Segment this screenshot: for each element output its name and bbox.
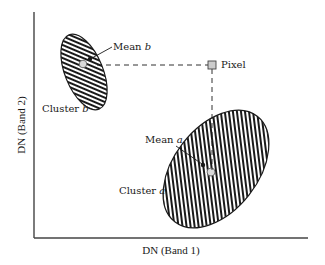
cluster-b-mean-dot	[88, 57, 92, 61]
cluster-a-label: Cluster a	[119, 185, 165, 196]
pixel-square-icon	[208, 61, 216, 69]
cluster-a	[142, 90, 291, 247]
cluster-b-label: Cluster b	[42, 103, 89, 114]
cluster-a-center-marker	[207, 168, 215, 176]
pixel-label: Pixel	[221, 59, 246, 70]
cluster-a-ellipse	[142, 90, 291, 247]
mean-b-label: Mean b	[113, 41, 151, 52]
mean-a-label: Mean a	[145, 134, 183, 145]
y-axis-label: DN (Band 2)	[15, 96, 28, 154]
x-axis-label: DN (Band 1)	[142, 244, 200, 257]
cluster-feature-space-diagram: Mean b Cluster b Pixel Mean a Cluster a …	[0, 0, 325, 265]
diagram-canvas: Mean b Cluster b Pixel Mean a Cluster a …	[0, 0, 325, 265]
cluster-b-center-marker	[79, 60, 87, 68]
